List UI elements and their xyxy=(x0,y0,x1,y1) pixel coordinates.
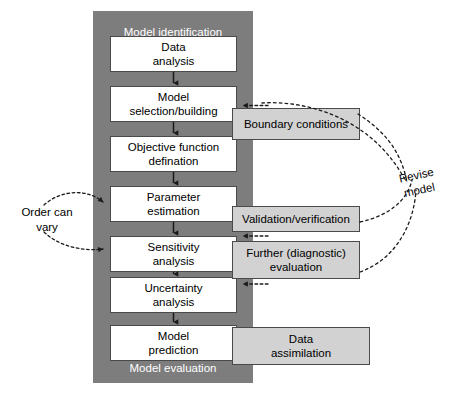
annotation-order-can-vary: Order can vary xyxy=(8,205,86,235)
side-box-data-assimilation[interactable]: Data assimilation xyxy=(232,327,370,365)
annotation-line1: Order can xyxy=(8,205,86,220)
annotation-revise-model: Revise model xyxy=(383,161,454,204)
process-box-objective-function-defination[interactable]: Objective function defination xyxy=(110,136,237,172)
process-box-line1: Model xyxy=(158,90,189,104)
process-box-line2: analysis xyxy=(153,254,195,268)
process-box-line1: Data xyxy=(161,40,185,54)
side-box-boundary-conditions[interactable]: Boundary conditions xyxy=(232,108,360,140)
process-box-model-selection-building[interactable]: Model selection/building xyxy=(110,86,237,122)
side-box-further-diagnostic-evaluation[interactable]: Further (diagnostic) evaluation xyxy=(232,241,360,279)
process-box-model-prediction[interactable]: Model prediction xyxy=(110,325,237,361)
side-box-line2: assimilation xyxy=(271,346,331,360)
process-box-line1: Objective function xyxy=(128,140,219,154)
process-box-line1: Model xyxy=(158,329,189,343)
side-box-validation-verification[interactable]: Validation/verification xyxy=(232,206,360,232)
process-box-line1: Sensitivity xyxy=(148,240,200,254)
process-box-parameter-estimation[interactable]: Parameter estimation xyxy=(110,186,237,222)
process-box-line2: selection/building xyxy=(129,104,217,118)
process-box-sensitivity-analysis[interactable]: Sensitivity analysis xyxy=(110,236,237,272)
process-box-line2: estimation xyxy=(147,204,199,218)
process-box-line2: prediction xyxy=(149,343,199,357)
process-box-data-analysis[interactable]: Data analysis xyxy=(110,36,237,72)
side-box-line2: evaluation xyxy=(270,260,322,274)
side-box-line1: Boundary conditions xyxy=(244,117,348,131)
process-box-uncertainty-analysis[interactable]: Uncertainty analysis xyxy=(110,277,237,313)
process-box-line1: Parameter xyxy=(147,190,201,204)
process-box-line1: Uncertainty xyxy=(144,281,202,295)
side-box-line1: Data xyxy=(289,332,313,346)
side-box-line1: Further (diagnostic) xyxy=(246,246,346,260)
process-box-line2: analysis xyxy=(153,54,195,68)
section-label-model-evaluation: Model evaluation xyxy=(93,361,253,375)
annotation-line2: vary xyxy=(8,220,86,235)
diagram-canvas: Model identification Model evaluation Da… xyxy=(0,0,458,395)
process-box-line2: defination xyxy=(149,154,199,168)
process-box-line2: analysis xyxy=(153,295,195,309)
side-box-line1: Validation/verification xyxy=(242,212,350,226)
